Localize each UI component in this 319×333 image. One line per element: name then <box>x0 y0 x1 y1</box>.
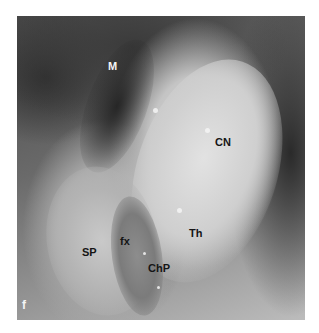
panel-letter: f <box>22 299 26 311</box>
label-sp: SP <box>82 247 97 258</box>
light-reflection <box>205 128 210 133</box>
light-reflection <box>143 252 146 255</box>
label-chp: ChP <box>148 263 170 274</box>
light-reflection <box>153 108 158 113</box>
label-m: M <box>108 61 117 72</box>
endoscopic-image: M CN Th SP fx ChP f <box>17 16 305 320</box>
label-th: Th <box>189 228 202 239</box>
label-fx: fx <box>120 236 130 247</box>
light-reflection <box>177 208 182 213</box>
light-reflection <box>157 286 160 289</box>
label-cn: CN <box>215 137 231 148</box>
